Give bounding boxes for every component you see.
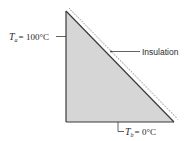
triangle-diagram: Ta= 100°C Insulation Tb= 0°C [0,0,185,141]
insulation-leader-dot [110,51,112,53]
ta-label: Ta= 100°C [9,31,49,43]
tb-leader-line [118,122,124,132]
insulation-label: Insulation [142,47,179,57]
tb-label: Tb= 0°C [125,126,156,138]
